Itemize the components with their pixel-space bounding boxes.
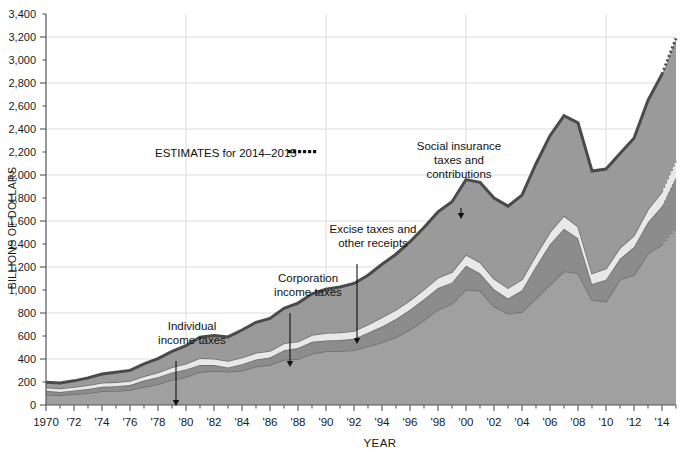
x-tick-label: '84 <box>235 416 251 428</box>
x-tick-label: '94 <box>375 416 391 428</box>
revenue-area-chart: 02004006008001,0001,2001,4001,6001,8002,… <box>0 0 682 455</box>
annotation-label-line: contributions <box>426 168 491 180</box>
y-tick-label: 3,000 <box>8 54 36 66</box>
estimates-note: ESTIMATES for 2014–2015 <box>155 147 316 159</box>
y-tick-label: 800 <box>18 307 36 319</box>
x-tick-label: '90 <box>319 416 334 428</box>
x-tick-label: '04 <box>515 416 531 428</box>
x-tick-label: '82 <box>207 416 222 428</box>
y-tick-label: 2,800 <box>8 77 36 89</box>
x-tick-label: '98 <box>431 416 446 428</box>
x-tick-label: '06 <box>543 416 558 428</box>
annotation-label-line: income taxes <box>158 334 226 346</box>
y-tick-label: 2,600 <box>8 100 36 112</box>
estimates-dot <box>288 150 291 153</box>
x-tick-label: '80 <box>179 416 194 428</box>
x-tick-label: '12 <box>627 416 642 428</box>
estimates-dot <box>303 150 306 153</box>
y-tick-label: 3,200 <box>8 31 36 43</box>
x-axis-title: YEAR <box>364 437 397 449</box>
x-tick-label: '86 <box>263 416 278 428</box>
x-tick-label: '92 <box>347 416 362 428</box>
y-tick-label: 2,400 <box>8 123 36 135</box>
x-tick-label: '08 <box>571 416 586 428</box>
x-tick-label: '72 <box>67 416 82 428</box>
x-tick-label: '02 <box>487 416 502 428</box>
estimates-dot <box>298 150 301 153</box>
estimates-note-label: ESTIMATES for 2014–2015 <box>155 147 297 159</box>
estimates-dot <box>313 150 316 153</box>
chart-canvas: 02004006008001,0001,2001,4001,6001,8002,… <box>0 0 682 455</box>
annotation-label-line: taxes and <box>434 154 484 166</box>
x-tick-label: '00 <box>459 416 474 428</box>
estimates-dot <box>308 150 311 153</box>
x-tick-label: '78 <box>151 416 166 428</box>
annotation-label-line: Individual <box>168 320 217 332</box>
annotation-label-line: Social insurance <box>417 140 501 152</box>
y-tick-label: 2,200 <box>8 146 36 158</box>
x-tick-label: '10 <box>599 416 614 428</box>
annotation-label-line: other receipts <box>338 237 408 249</box>
annotation-label-line: Excise taxes and <box>330 223 417 235</box>
y-tick-label: 400 <box>18 353 36 365</box>
y-tick-label: 600 <box>18 330 36 342</box>
x-tick-label: '74 <box>95 416 111 428</box>
x-tick-label: 1970 <box>33 416 59 428</box>
y-axis-title: BILLIONS OF DOLLARS <box>6 167 18 289</box>
x-tick-label: '14 <box>655 416 671 428</box>
x-tick-label: '96 <box>403 416 418 428</box>
y-tick-label: 3,400 <box>8 8 36 20</box>
y-tick-label: 200 <box>18 376 36 388</box>
annotation-label-line: Corporation <box>278 272 338 284</box>
annotation-label-line: income taxes <box>274 286 342 298</box>
x-tick-label: '88 <box>291 416 306 428</box>
estimates-dot <box>293 150 296 153</box>
y-tick-label: 0 <box>30 399 36 411</box>
x-tick-label: '76 <box>123 416 138 428</box>
